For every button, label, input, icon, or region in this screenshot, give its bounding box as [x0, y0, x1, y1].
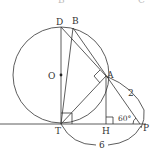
- label-o: O: [48, 71, 55, 81]
- geometry-diagram: B C D B O A T H: [0, 0, 155, 149]
- segment-tb: [61, 28, 73, 124]
- label-h: H: [102, 126, 110, 136]
- cut-label-c: C: [138, 0, 145, 5]
- label-b: B: [72, 16, 79, 26]
- segment-ta: [61, 76, 106, 124]
- label-p: P: [143, 123, 149, 133]
- label-tp-length: 6: [99, 140, 105, 149]
- label-d: D: [56, 17, 63, 27]
- label-angle-p: 60°: [118, 114, 132, 123]
- label-ap-length: 2: [128, 88, 134, 98]
- right-angle-h: [106, 117, 113, 124]
- cut-label-b: B: [58, 0, 65, 5]
- label-a: A: [106, 70, 114, 80]
- center-dot-o: [60, 74, 63, 77]
- dimension-arc-tp-right: [108, 126, 141, 145]
- label-t: T: [55, 126, 61, 136]
- angle-arc-p: [133, 118, 136, 124]
- right-angle-a: [94, 70, 100, 83]
- dimension-arc-tp-left: [61, 124, 96, 145]
- dimension-arc-ap: [106, 76, 144, 110]
